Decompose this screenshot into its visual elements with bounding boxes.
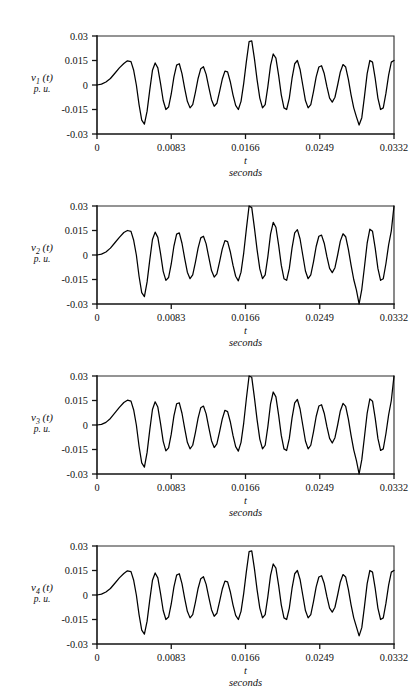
waveform-figure: 0.030.0150-0.015-0.0300.00830.01660.0249…: [0, 0, 419, 700]
x-tick-label: 0.0249: [306, 652, 334, 663]
x-tick-label: 0.0083: [157, 312, 185, 323]
y-axis: 0.030.0150-0.015-0.03: [61, 371, 97, 480]
y-tick-label: 0.015: [65, 565, 88, 576]
x-tick-label: 0.0166: [231, 142, 259, 153]
y-tick-label: 0.03: [70, 371, 88, 382]
waveform-trace: [97, 376, 394, 474]
x-tick-label: 0: [94, 652, 99, 663]
x-axis: 00.00830.01660.02490.0332: [94, 474, 408, 493]
x-tick-label: 0: [94, 312, 99, 323]
x-tick-label: 0.0332: [380, 482, 408, 493]
x-tick-label: 0.0249: [306, 312, 334, 323]
y-tick-label: -0.03: [67, 469, 88, 480]
y-axis-units: p. u.: [33, 254, 51, 264]
x-tick-label: 0.0166: [231, 482, 259, 493]
waveform-trace: [97, 41, 394, 125]
chart-panel-2: 0.030.0150-0.015-0.0300.00830.01660.0249…: [0, 198, 419, 368]
x-tick-label: 0.0083: [157, 482, 185, 493]
x-tick-label: 0: [94, 142, 99, 153]
y-axis: 0.030.0150-0.015-0.03: [61, 201, 97, 310]
y-tick-label: 0: [83, 250, 88, 261]
x-tick-label: 0.0083: [157, 652, 185, 663]
y-tick-label: 0.015: [65, 225, 88, 236]
y-tick-label: -0.03: [67, 639, 88, 650]
y-tick-label: -0.03: [67, 129, 88, 140]
chart-panel-3: 0.030.0150-0.015-0.0300.00830.01660.0249…: [0, 368, 419, 538]
y-tick-label: 0: [83, 420, 88, 431]
y-tick-label: 0.015: [65, 395, 88, 406]
y-tick-label: 0.03: [70, 541, 88, 552]
y-axis-units: p. u.: [33, 424, 51, 434]
x-axis-title: t: [244, 665, 248, 676]
x-axis: 00.00830.01660.02490.0332: [94, 644, 408, 663]
x-axis-title: t: [244, 155, 248, 166]
x-tick-label: 0: [94, 482, 99, 493]
x-tick-label: 0.0249: [306, 482, 334, 493]
y-tick-label: 0.015: [65, 55, 88, 66]
x-axis-title: t: [244, 325, 248, 336]
x-axis-units: seconds: [229, 337, 262, 348]
y-tick-label: 0.03: [70, 31, 88, 42]
y-tick-label: -0.015: [61, 614, 88, 625]
y-tick-label: -0.015: [61, 444, 88, 455]
y-tick-label: 0: [83, 590, 88, 601]
y-axis-units: p. u.: [33, 84, 51, 94]
x-axis-title: t: [244, 495, 248, 506]
y-tick-label: 0.03: [70, 201, 88, 212]
waveform-trace: [97, 206, 394, 304]
x-tick-label: 0.0166: [231, 312, 259, 323]
x-axis-units: seconds: [229, 167, 262, 178]
y-tick-label: -0.015: [61, 274, 88, 285]
x-tick-label: 0.0249: [306, 142, 334, 153]
y-axis-units: p. u.: [33, 594, 51, 604]
x-tick-label: 0.0332: [380, 142, 408, 153]
x-tick-label: 0.0083: [157, 142, 185, 153]
y-tick-label: -0.03: [67, 299, 88, 310]
chart-panel-1: 0.030.0150-0.015-0.0300.00830.01660.0249…: [0, 28, 419, 198]
y-axis: 0.030.0150-0.015-0.03: [61, 541, 97, 650]
waveform-trace: [97, 551, 394, 636]
x-axis-units: seconds: [229, 507, 262, 518]
y-tick-label: -0.015: [61, 104, 88, 115]
y-tick-label: 0: [83, 80, 88, 91]
x-tick-label: 0.0332: [380, 652, 408, 663]
x-axis: 00.00830.01660.02490.0332: [94, 134, 408, 153]
x-tick-label: 0.0332: [380, 312, 408, 323]
chart-panel-4: 0.030.0150-0.015-0.0300.00830.01660.0249…: [0, 538, 419, 700]
x-axis: 00.00830.01660.02490.0332: [94, 304, 408, 323]
x-tick-label: 0.0166: [231, 652, 259, 663]
y-axis: 0.030.0150-0.015-0.03: [61, 31, 97, 140]
x-axis-units: seconds: [229, 677, 262, 688]
